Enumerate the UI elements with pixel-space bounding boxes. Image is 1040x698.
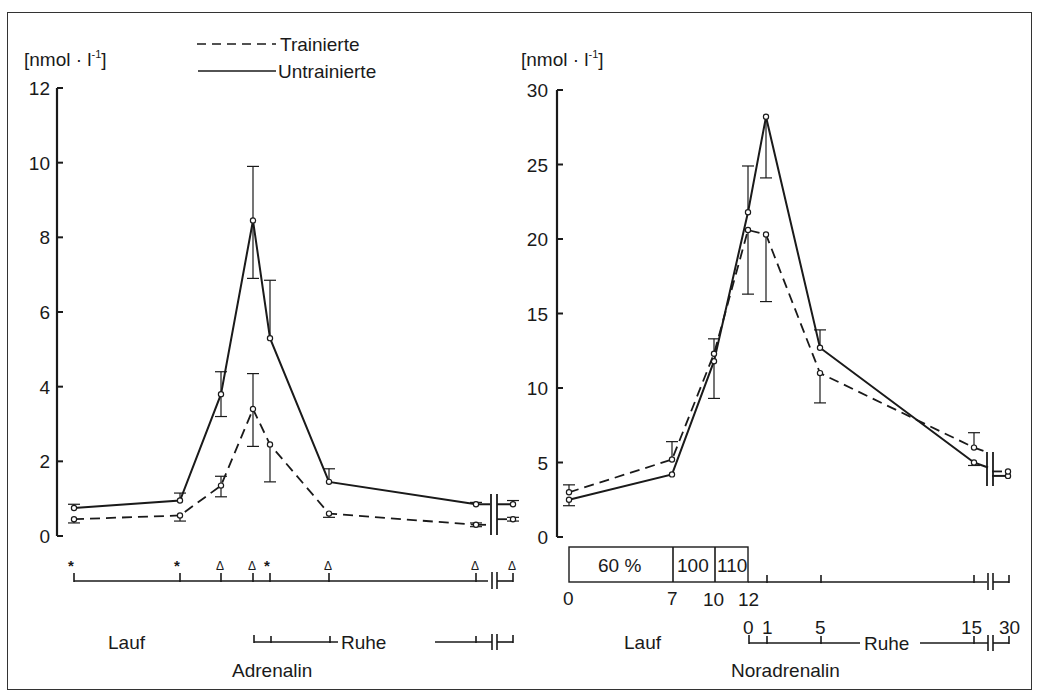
data-point <box>763 232 768 237</box>
y-tick-label: 25 <box>527 155 548 176</box>
data-point <box>711 351 716 356</box>
data-point <box>326 511 331 516</box>
data-point <box>510 502 515 507</box>
right-run-label: Lauf <box>624 632 662 653</box>
y-tick-label: 10 <box>29 153 50 174</box>
data-point <box>745 227 750 232</box>
noradrenalin-plot <box>563 114 1011 505</box>
data-point <box>669 457 674 462</box>
left-run-label: Lauf <box>108 632 146 653</box>
svg-text:10: 10 <box>703 589 724 610</box>
left-y-axis: 024681012 <box>29 78 63 547</box>
svg-text:[nmol · l-1]: [nmol · l-1] <box>521 48 604 70</box>
data-point <box>763 114 768 119</box>
delta-marker: Δ <box>216 559 224 573</box>
data-point <box>473 502 478 507</box>
run-ticks: 0 7 10 12 <box>563 588 759 610</box>
data-point <box>1005 469 1010 474</box>
data-point <box>971 460 976 465</box>
right-y-axis: 051015202530 <box>527 80 563 548</box>
svg-text:7: 7 <box>667 588 678 609</box>
data-point <box>817 371 822 376</box>
svg-text:5: 5 <box>815 617 826 638</box>
data-point <box>267 442 272 447</box>
delta-marker: Δ <box>324 559 332 573</box>
series-untrainierte <box>68 166 519 510</box>
y-tick-label: 10 <box>527 378 548 399</box>
svg-text:[nmol · l-1]: [nmol · l-1] <box>24 48 107 70</box>
y-tick-label: 0 <box>537 527 548 548</box>
svg-text:1: 1 <box>762 617 773 638</box>
figure: Trainierte Untrainierte [nmol · l-1] [nm… <box>0 0 1040 698</box>
intensity-110: 110 <box>717 555 747 576</box>
data-point <box>218 483 223 488</box>
delta-marker: Δ <box>471 559 479 573</box>
legend-untrainierte: Untrainierte <box>278 61 376 82</box>
delta-marker: Δ <box>248 559 256 573</box>
y-tick-label: 6 <box>39 302 50 323</box>
data-point <box>669 472 674 477</box>
y-tick-label: 0 <box>39 526 50 547</box>
y-tick-label: 12 <box>29 78 50 99</box>
data-point <box>177 498 182 503</box>
y-tick-label: 5 <box>537 453 548 474</box>
asterisk-marker: * <box>174 557 180 574</box>
data-point <box>566 490 571 495</box>
data-point <box>971 445 976 450</box>
data-point <box>267 336 272 341</box>
data-point <box>250 406 255 411</box>
right-rest-label: Ruhe <box>864 633 909 654</box>
data-point <box>473 522 478 527</box>
y-tick-label: 20 <box>527 229 548 250</box>
left-rest-label: Ruhe <box>341 632 386 653</box>
series-untrainierte <box>563 114 1011 505</box>
svg-text:30: 30 <box>999 617 1020 638</box>
right-hormone-label: Noradrenalin <box>731 660 840 681</box>
data-point <box>250 218 255 223</box>
data-point <box>71 505 76 510</box>
y-tick-label: 15 <box>527 304 548 325</box>
y-tick-label: 4 <box>39 377 50 398</box>
data-point <box>177 513 182 518</box>
left-unit-label: [nmol · l-1] <box>24 48 107 70</box>
svg-text:12: 12 <box>738 589 759 610</box>
asterisk-marker: * <box>68 557 74 574</box>
svg-text:15: 15 <box>961 617 982 638</box>
asterisk-marker: * <box>264 557 270 574</box>
series-trainierte <box>563 227 1011 494</box>
data-point <box>326 479 331 484</box>
data-point <box>510 517 515 522</box>
adrenalin-plot <box>68 166 519 527</box>
data-point <box>218 392 223 397</box>
svg-text:0: 0 <box>563 588 574 609</box>
data-point <box>817 345 822 350</box>
data-point <box>71 517 76 522</box>
data-point <box>745 210 750 215</box>
intensity-100: 100 <box>677 555 709 576</box>
legend-trainierte: Trainierte <box>280 34 360 55</box>
significance-markers: * * Δ Δ * Δ Δ Δ <box>68 557 516 574</box>
svg-text:0: 0 <box>743 617 754 638</box>
intensity-60: 60 % <box>598 555 641 576</box>
left-hormone-label: Adrenalin <box>232 660 312 681</box>
y-tick-label: 8 <box>39 227 50 248</box>
legend: Trainierte Untrainierte <box>197 34 376 82</box>
delta-marker: Δ <box>508 559 516 573</box>
y-tick-label: 30 <box>527 80 548 101</box>
data-point <box>566 497 571 502</box>
y-tick-label: 2 <box>39 451 50 472</box>
right-unit-label: [nmol · l-1] <box>521 48 604 70</box>
